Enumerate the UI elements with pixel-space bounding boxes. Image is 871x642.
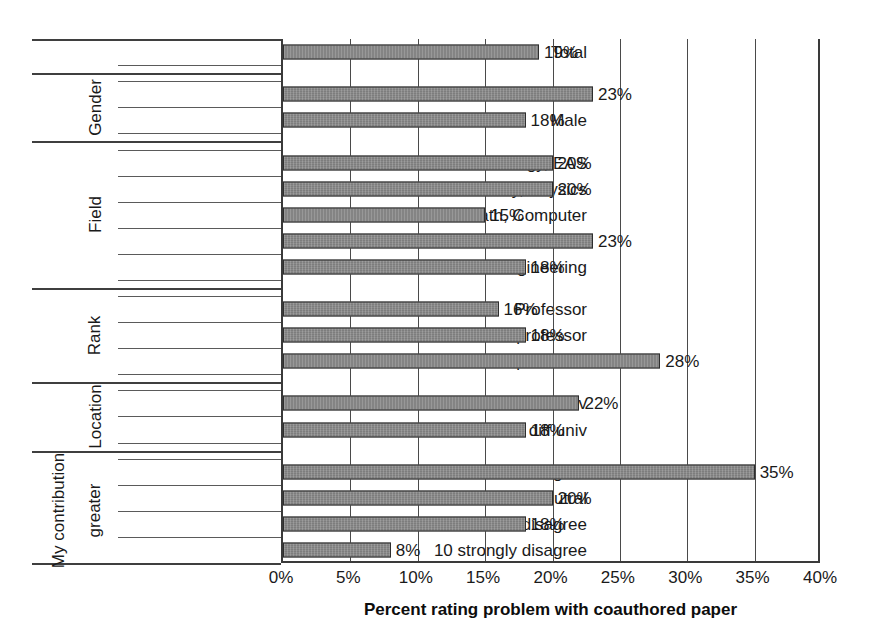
bar[interactable]	[283, 155, 553, 170]
bar-row: 22%	[283, 390, 818, 416]
x-tick-label: 35%	[736, 569, 770, 586]
x-tick-label: 5%	[336, 569, 361, 586]
x-tick-label: 30%	[668, 569, 702, 586]
label-rule	[118, 511, 281, 512]
bar[interactable]	[283, 207, 485, 222]
bar-value-label: 18%	[531, 258, 565, 275]
x-axis-title: Percent rating problem with coauthored p…	[281, 600, 820, 620]
bar-row: 28%	[283, 348, 818, 374]
x-tick-label: 0%	[269, 569, 294, 586]
bar-value-label: 16%	[504, 301, 538, 318]
bar-value-label: 20%	[558, 154, 592, 171]
bar-row: 18%	[283, 511, 818, 537]
bar-row: 20%	[283, 150, 818, 176]
label-rule	[118, 416, 281, 417]
label-rule	[118, 374, 281, 375]
label-rule	[118, 202, 281, 203]
bar-value-label: 18%	[531, 515, 565, 532]
bar-row: 16%	[283, 296, 818, 322]
group-separator	[32, 451, 281, 453]
group-separator	[32, 288, 281, 290]
group-separator	[32, 382, 281, 384]
label-rule	[118, 280, 281, 281]
x-tick-label: 20%	[533, 569, 567, 586]
bar-row: 20%	[283, 176, 818, 202]
bar-row: 18%	[283, 107, 818, 133]
bar[interactable]	[283, 354, 660, 369]
label-rule	[118, 443, 281, 444]
bar-value-label: 15%	[490, 206, 524, 223]
bar[interactable]	[283, 87, 593, 102]
chart-figure: TotalFemaleMaleBiology, EASChemistry, Ph…	[0, 0, 871, 642]
group-separator	[32, 141, 281, 143]
group-label-inner: greater	[82, 459, 108, 563]
label-rule	[118, 390, 281, 391]
bar-row: 20%	[283, 485, 818, 511]
label-rule	[118, 133, 281, 134]
bar-value-label: 20%	[558, 180, 592, 197]
bar[interactable]	[283, 516, 526, 531]
bar-value-label: 35%	[760, 463, 794, 480]
group-label: Location	[82, 390, 108, 442]
bar-row: 15%	[283, 202, 818, 228]
group-label: Rank	[82, 296, 108, 374]
bar-row: 18%	[283, 322, 818, 348]
bar-value-label: 20%	[558, 489, 592, 506]
group-separator	[32, 73, 281, 75]
bar[interactable]	[283, 422, 526, 437]
bar-row: 8%	[283, 537, 818, 563]
x-tick-label: 40%	[803, 569, 837, 586]
bar[interactable]	[283, 113, 526, 128]
group-label-outer: My contribution	[46, 459, 72, 563]
label-rule	[118, 537, 281, 538]
label-rule	[118, 322, 281, 323]
bar-value-label: 18%	[531, 327, 565, 344]
bar[interactable]	[283, 302, 499, 317]
group-label: Gender	[82, 81, 108, 133]
bar-row: 35%	[283, 459, 818, 485]
bar-row: 23%	[283, 81, 818, 107]
bar-row: 18%	[283, 254, 818, 280]
bar[interactable]	[283, 490, 553, 505]
label-rule	[118, 459, 281, 460]
label-rule	[118, 254, 281, 255]
group-separator	[32, 563, 281, 565]
bar-value-label: 19%	[544, 44, 578, 61]
label-rule	[118, 150, 281, 151]
x-tick-label: 10%	[399, 569, 433, 586]
bar[interactable]	[283, 396, 579, 411]
label-rule	[118, 296, 281, 297]
bar[interactable]	[283, 464, 755, 479]
bar-row: 19%	[283, 39, 818, 65]
plot-area: 19%23%18%20%20%15%23%18%16%18%28%22%18%3…	[281, 39, 820, 563]
bar-value-label: 23%	[598, 232, 632, 249]
bar-value-label: 18%	[531, 421, 565, 438]
group-label: Field	[82, 150, 108, 280]
label-rule	[118, 228, 281, 229]
x-tick-label: 15%	[466, 569, 500, 586]
bar-value-label: 28%	[665, 353, 699, 370]
bar[interactable]	[283, 542, 391, 557]
label-rule	[118, 485, 281, 486]
label-rule	[118, 81, 281, 82]
x-tick-label: 25%	[601, 569, 635, 586]
bar-row: 18%	[283, 416, 818, 442]
bar-value-label: 22%	[584, 395, 618, 412]
label-rule	[118, 65, 281, 66]
label-rule	[118, 348, 281, 349]
bar-value-label: 23%	[598, 86, 632, 103]
group-separator	[32, 39, 281, 41]
bar-value-label: 18%	[531, 112, 565, 129]
bar-row: 23%	[283, 228, 818, 254]
bar[interactable]	[283, 259, 526, 274]
bar[interactable]	[283, 181, 553, 196]
label-rule	[118, 107, 281, 108]
bar[interactable]	[283, 233, 593, 248]
bar-value-label: 8%	[396, 541, 421, 558]
bar[interactable]	[283, 45, 539, 60]
bar[interactable]	[283, 328, 526, 343]
label-rule	[118, 176, 281, 177]
